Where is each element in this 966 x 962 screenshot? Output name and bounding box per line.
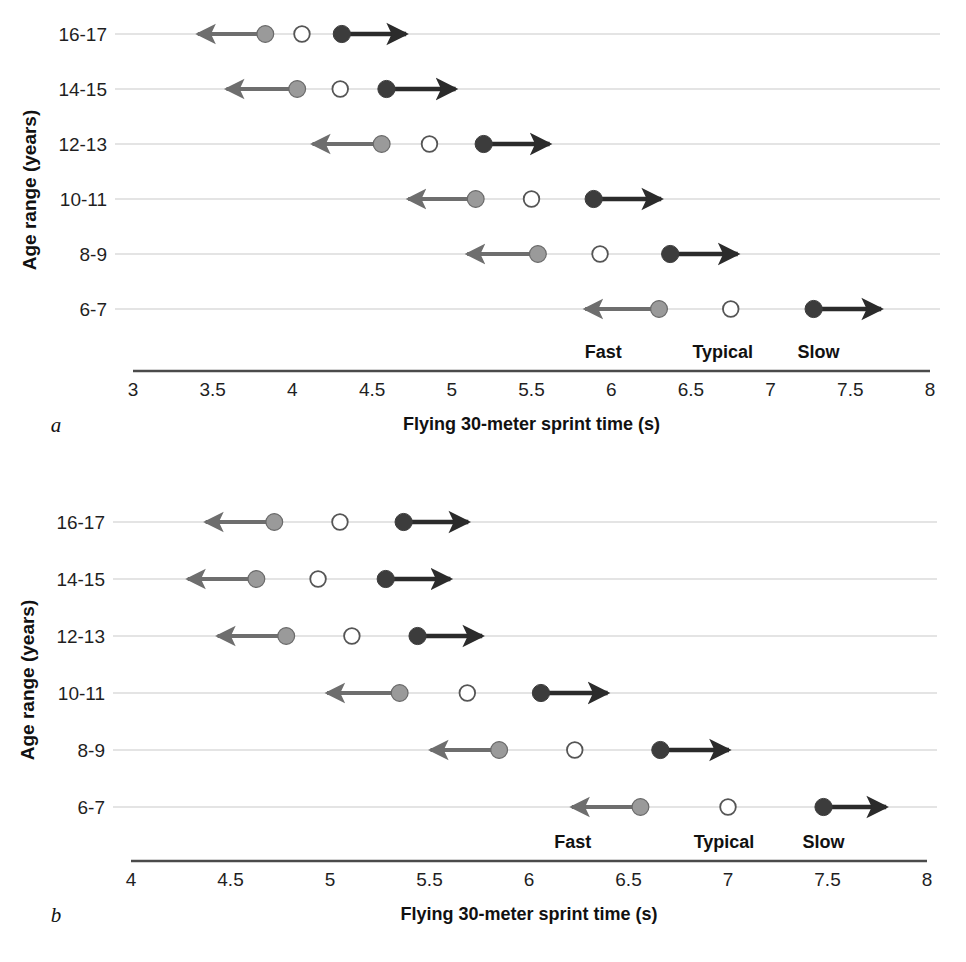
y-tick-label-14-15: 14-15 bbox=[56, 569, 105, 590]
chart-row-6-7: 6-7 bbox=[78, 797, 937, 818]
zone-label-fast: Fast bbox=[585, 342, 622, 362]
slow-marker bbox=[652, 741, 669, 758]
y-tick-label-8-9: 8-9 bbox=[78, 740, 105, 761]
fast-marker bbox=[257, 26, 274, 43]
zone-label-slow: Slow bbox=[803, 832, 846, 852]
slow-marker bbox=[409, 627, 426, 644]
y-axis-title: Age range (years) bbox=[19, 110, 40, 271]
chart-panel-b: 16-1714-1512-1310-118-96-7FastTypicalSlo… bbox=[0, 480, 966, 962]
slow-marker bbox=[378, 80, 395, 97]
typical-marker bbox=[723, 301, 739, 317]
x-tick-label-4: 4 bbox=[287, 379, 298, 400]
y-tick-label-12-13: 12-13 bbox=[58, 134, 107, 155]
chart-panel-a: 16-1714-1512-1310-118-96-7FastTypicalSlo… bbox=[0, 0, 966, 480]
x-axis-title: Flying 30-meter sprint time (s) bbox=[403, 414, 660, 434]
typical-marker bbox=[344, 628, 360, 644]
y-tick-label-6-7: 6-7 bbox=[80, 299, 107, 320]
fast-marker bbox=[651, 301, 668, 318]
x-tick-label-5: 5 bbox=[325, 869, 336, 890]
x-tick-label-3: 3 bbox=[128, 379, 139, 400]
zone-label-slow: Slow bbox=[797, 342, 840, 362]
chart-row-8-9: 8-9 bbox=[78, 740, 937, 761]
fast-marker bbox=[248, 571, 265, 588]
fast-marker bbox=[632, 799, 649, 816]
slow-marker bbox=[377, 570, 394, 587]
x-tick-label-4.5: 4.5 bbox=[217, 869, 243, 890]
fast-marker bbox=[373, 136, 390, 153]
x-tick-label-8: 8 bbox=[922, 869, 933, 890]
typical-marker bbox=[460, 685, 476, 701]
y-tick-label-14-15: 14-15 bbox=[58, 79, 107, 100]
slow-marker bbox=[395, 513, 412, 530]
fast-marker bbox=[278, 628, 295, 645]
typical-marker bbox=[422, 136, 438, 152]
chart-plot-area-b: 16-1714-1512-1310-118-96-7FastTypicalSlo… bbox=[0, 480, 966, 962]
typical-marker bbox=[567, 742, 583, 758]
x-tick-label-6: 6 bbox=[524, 869, 535, 890]
x-tick-label-5: 5 bbox=[447, 379, 458, 400]
x-tick-label-4.5: 4.5 bbox=[359, 379, 385, 400]
fast-marker bbox=[467, 191, 484, 208]
fast-marker bbox=[391, 685, 408, 702]
chart-row-10-11: 10-11 bbox=[60, 189, 940, 210]
y-tick-label-6-7: 6-7 bbox=[78, 797, 105, 818]
typical-marker bbox=[294, 26, 310, 42]
chart-row-12-13: 12-13 bbox=[56, 626, 937, 647]
chart-row-12-13: 12-13 bbox=[58, 134, 940, 155]
chart-row-6-7: 6-7 bbox=[80, 299, 940, 320]
slow-marker bbox=[333, 25, 350, 42]
zone-label-typical: Typical bbox=[694, 832, 755, 852]
slow-marker bbox=[805, 300, 822, 317]
x-tick-label-8: 8 bbox=[925, 379, 936, 400]
slow-marker bbox=[815, 798, 832, 815]
x-tick-label-5.5: 5.5 bbox=[416, 869, 442, 890]
y-tick-label-10-11: 10-11 bbox=[58, 683, 105, 704]
x-tick-label-7.5: 7.5 bbox=[814, 869, 840, 890]
chart-row-14-15: 14-15 bbox=[58, 79, 940, 100]
typical-marker bbox=[332, 514, 348, 530]
y-axis-title: Age range (years) bbox=[17, 600, 38, 761]
fast-marker bbox=[266, 514, 283, 531]
chart-row-10-11: 10-11 bbox=[58, 683, 937, 704]
typical-marker bbox=[524, 191, 540, 207]
x-tick-label-6: 6 bbox=[606, 379, 617, 400]
chart-plot-area-a: 16-1714-1512-1310-118-96-7FastTypicalSlo… bbox=[0, 0, 966, 480]
x-tick-label-7.5: 7.5 bbox=[837, 379, 863, 400]
y-tick-label-10-11: 10-11 bbox=[60, 189, 107, 210]
typical-marker bbox=[720, 799, 736, 815]
y-tick-label-8-9: 8-9 bbox=[80, 244, 107, 265]
slow-marker bbox=[475, 135, 492, 152]
panel-letter-b: b bbox=[51, 903, 62, 927]
x-tick-label-7: 7 bbox=[765, 379, 776, 400]
y-tick-label-12-13: 12-13 bbox=[56, 626, 105, 647]
x-tick-label-7: 7 bbox=[723, 869, 734, 890]
slow-marker bbox=[532, 684, 549, 701]
y-tick-label-16-17: 16-17 bbox=[56, 512, 105, 533]
x-axis-title: Flying 30-meter sprint time (s) bbox=[400, 904, 657, 924]
x-tick-label-6.5: 6.5 bbox=[678, 379, 704, 400]
fast-marker bbox=[491, 742, 508, 759]
x-tick-label-6.5: 6.5 bbox=[615, 869, 641, 890]
typical-marker bbox=[332, 81, 348, 97]
chart-row-14-15: 14-15 bbox=[56, 569, 937, 590]
x-tick-label-5.5: 5.5 bbox=[518, 379, 544, 400]
chart-row-16-17: 16-17 bbox=[58, 24, 940, 45]
zone-label-fast: Fast bbox=[554, 832, 591, 852]
x-tick-label-4: 4 bbox=[126, 869, 137, 890]
chart-row-8-9: 8-9 bbox=[80, 244, 940, 265]
zone-label-typical: Typical bbox=[692, 342, 753, 362]
typical-marker bbox=[310, 571, 326, 587]
slow-marker bbox=[585, 190, 602, 207]
slow-marker bbox=[662, 245, 679, 262]
fast-marker bbox=[529, 246, 546, 263]
panel-letter-a: a bbox=[51, 413, 62, 437]
chart-row-16-17: 16-17 bbox=[56, 512, 937, 533]
typical-marker bbox=[592, 246, 608, 262]
x-tick-label-3.5: 3.5 bbox=[199, 379, 225, 400]
y-tick-label-16-17: 16-17 bbox=[58, 24, 107, 45]
fast-marker bbox=[289, 81, 306, 98]
